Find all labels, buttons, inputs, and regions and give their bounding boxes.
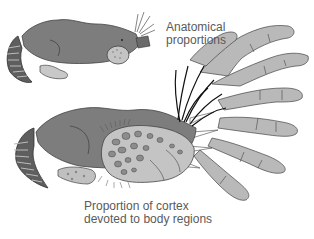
enlarged-star-nose [190,25,308,200]
label-line: proportions [166,34,226,47]
figure-canvas: Anatomical proportions Proportion of cor… [0,0,314,239]
label-line: devoted to body regions [84,213,212,226]
anatomical-proportions-label: Anatomical proportions [166,21,226,47]
cortex-proportion-label: Proportion of cortex devoted to body reg… [84,200,212,226]
anatomical-mole [7,12,155,83]
